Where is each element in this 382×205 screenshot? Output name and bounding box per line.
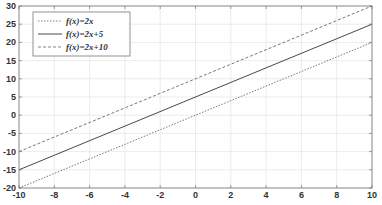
y-tick-label: -15 [3, 165, 16, 175]
y-tick-label: -20 [3, 183, 16, 193]
legend-label: f(x)=2x+5 [66, 29, 104, 39]
y-tick-label: 20 [6, 37, 16, 47]
x-tick-label: 6 [299, 190, 304, 200]
x-tick-label: -2 [156, 190, 164, 200]
x-tick-label: 2 [228, 190, 233, 200]
y-tick-label: -10 [3, 147, 16, 157]
x-tick-label: -6 [86, 190, 94, 200]
y-tick-label: 10 [6, 74, 16, 84]
x-tick-label: -4 [121, 190, 129, 200]
x-tick-label: -8 [50, 190, 58, 200]
line-chart: -10-8-6-4-20246810 -20-15-10-50510152025… [0, 0, 382, 205]
y-tick-label: 15 [6, 56, 16, 66]
legend-label: f(x)=2x [66, 16, 94, 26]
x-tick-label: 4 [264, 190, 269, 200]
y-tick-label: 0 [11, 110, 16, 120]
legend-label: f(x)=2x+10 [66, 42, 108, 52]
x-tick-label: 0 [193, 190, 198, 200]
x-tick-label: 8 [334, 190, 339, 200]
y-tick-label: -5 [8, 128, 16, 138]
y-tick-label: 25 [6, 19, 16, 29]
x-tick-label: 10 [367, 190, 377, 200]
y-tick-label: 5 [11, 92, 16, 102]
y-tick-label: 30 [6, 1, 16, 11]
legend: f(x)=2x f(x)=2x+5 f(x)=2x+10 [33, 12, 130, 56]
